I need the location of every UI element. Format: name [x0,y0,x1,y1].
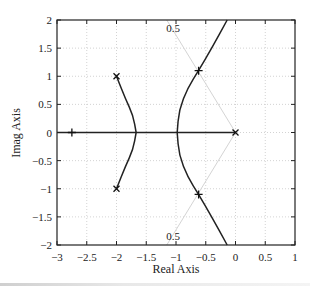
x-tick-label: −2 [111,251,123,263]
y-tick-label: 2 [47,14,53,26]
y-tick-label: 1.5 [38,42,52,54]
y-axis-label: Imag Axis [9,108,23,158]
x-tick-label: 0.5 [258,251,272,263]
x-axis-label: Real Axis [153,262,200,276]
x-tick-label: 0 [233,251,239,263]
y-tick-label: −0.5 [32,155,52,167]
y-tick-label: −2 [40,239,52,251]
y-tick-label: 0.5 [38,98,52,110]
y-tick-label: 0 [47,127,53,139]
x-tick-label: −3 [51,251,63,263]
damping-label: 0.5 [166,22,180,34]
damping-label: 0.5 [166,230,180,242]
x-tick-label: 1 [292,251,298,263]
y-tick-label: 1 [47,70,53,82]
x-tick-label: −2.5 [77,251,97,263]
gain-marker-plus-icon [68,129,76,137]
root-locus-chart: −3−2.5−2−1.5−1−0.500.51 −2−1.5−1−0.500.5… [0,0,310,286]
y-tick-label: −1 [40,183,52,195]
y-tick-labels: −2−1.5−1−0.500.511.52 [32,14,52,251]
y-tick-label: −1.5 [32,211,52,223]
